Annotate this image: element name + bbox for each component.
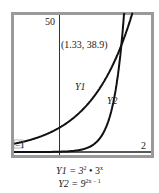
curve-y2 [14,13,124,152]
x-max-label: 2 [141,141,146,151]
formula-legend: Y1 = 32 • 3x Y2 = 92x − 1 [0,163,159,189]
formula-y1-base: Y1 = 3 [56,165,83,176]
x-min-label: −1 [15,140,25,150]
intersection-label: (1.33, 38.9) [61,40,108,50]
formula-y1-mid: • 3 [86,165,100,176]
formula-y2-exp: 2x − 1 [85,178,100,184]
y1-curve-label: Y1 [75,82,86,92]
y2-curve-label: Y2 [107,96,118,106]
formula-y1: Y1 = 32 • 3x [0,163,159,176]
formula-y1-exp2: x [100,165,103,171]
formula-y2: Y2 = 92x − 1 [0,176,159,189]
curve-y1 [14,13,133,144]
y-max-label: 50 [45,17,55,27]
formula-y2-base: Y2 = 9 [58,178,85,189]
